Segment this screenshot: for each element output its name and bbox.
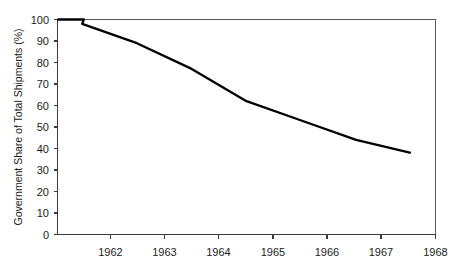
y-tick-label: 90: [37, 35, 49, 47]
x-tick-label: 1967: [369, 246, 393, 258]
y-tick-label: 50: [37, 121, 49, 133]
y-axis-title: Government Share of Total Shipments (%): [12, 28, 24, 225]
x-tick-label: 1966: [315, 246, 339, 258]
chart-background: [0, 0, 451, 270]
y-tick-label: 100: [31, 14, 49, 26]
line-chart-canvas: 100 90 80 70 60 50 40 30 20 10 0 1962 19…: [0, 0, 451, 270]
x-tick-label: 1963: [152, 246, 176, 258]
x-tick-label: 1968: [423, 246, 447, 258]
y-tick-label: 30: [37, 164, 49, 176]
y-tick-label: 10: [37, 207, 49, 219]
y-tick-label: 60: [37, 100, 49, 112]
y-tick-label: 70: [37, 78, 49, 90]
chart-figure: 100 90 80 70 60 50 40 30 20 10 0 1962 19…: [0, 0, 451, 270]
y-tick-label: 40: [37, 143, 49, 155]
y-tick-label: 0: [43, 229, 49, 241]
x-tick-label: 1964: [206, 246, 230, 258]
y-tick-label: 20: [37, 186, 49, 198]
x-tick-label: 1962: [98, 246, 122, 258]
x-tick-label: 1965: [261, 246, 285, 258]
y-tick-label: 80: [37, 57, 49, 69]
